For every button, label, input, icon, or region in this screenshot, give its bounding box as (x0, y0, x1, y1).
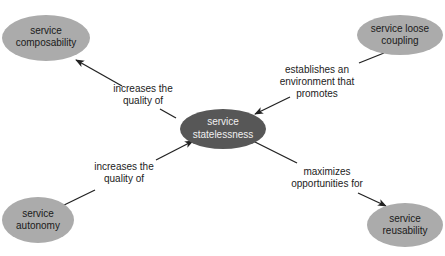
connector-line-upper (253, 141, 297, 163)
edge-loose-coupling-to-center: establishes an environment that promotes (255, 53, 384, 114)
connector-line-lower (60, 190, 95, 207)
edge-label-line1: maximizes (303, 166, 350, 177)
edge-label-line2: environment that (280, 76, 355, 87)
connector-line-upper (359, 53, 384, 63)
node-label-line1: service (30, 25, 62, 36)
node-label-line1: service loose (371, 23, 430, 34)
edge-label-line2: opportunities for (291, 178, 363, 189)
node-service-loose-coupling[interactable]: service loose coupling (357, 15, 443, 55)
connector-line-upper (156, 141, 193, 160)
node-service-autonomy[interactable]: service autonomy (2, 197, 74, 243)
node-label-line2: autonomy (16, 220, 60, 231)
edge-label-line3: promotes (296, 88, 338, 99)
node-label-line1: service (207, 116, 239, 127)
edge-autonomy-to-center: increases the quality of (60, 141, 193, 207)
edge-center-to-reusability: maximizes opportunities for (253, 141, 386, 206)
edge-label-line2: quality of (104, 173, 144, 184)
node-label-line1: service (22, 208, 54, 219)
node-label-line2: coupling (381, 35, 418, 46)
node-service-statelessness[interactable]: service statelessness (180, 109, 266, 149)
node-service-composability[interactable]: service composability (2, 15, 90, 61)
connector-line-lower (358, 193, 386, 206)
edge-label-line1: increases the (94, 161, 154, 172)
node-service-reusability[interactable]: service reusability (367, 203, 443, 247)
node-label-line2: statelessness (193, 129, 254, 140)
concept-diagram: increases the quality of establishes an … (0, 0, 445, 256)
connector-line-lower (255, 97, 290, 114)
node-label-line2: reusability (382, 225, 427, 236)
node-label-line1: service (389, 213, 421, 224)
edge-label-line2: quality of (123, 95, 163, 106)
edge-center-to-composability: increases the quality of (76, 60, 176, 118)
edge-label-line1: establishes an (285, 64, 349, 75)
node-label-line2: composability (16, 37, 77, 48)
connector-line-lower (160, 109, 176, 118)
edge-label-line1: increases the (113, 83, 173, 94)
